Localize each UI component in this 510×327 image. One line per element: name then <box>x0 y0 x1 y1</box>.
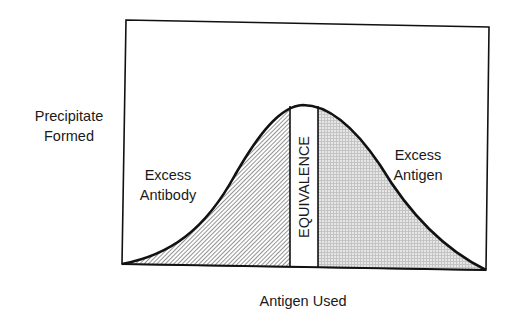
equivalence-label: EQUIVALENCE <box>296 136 312 238</box>
x-axis-label: Antigen Used <box>259 293 346 309</box>
y-axis-label-line1: Precipitate <box>35 108 104 124</box>
excess-antigen-label-line2: Antigen <box>393 167 442 183</box>
y-axis-label-line2: Formed <box>44 128 94 144</box>
precipitin-curve-diagram: Precipitate Formed Excess Antibody EQUIV… <box>0 0 510 327</box>
excess-antigen-label-line1: Excess <box>395 147 442 163</box>
excess-antibody-label-line1: Excess <box>145 167 192 183</box>
excess-antibody-label-line2: Antibody <box>140 187 197 203</box>
